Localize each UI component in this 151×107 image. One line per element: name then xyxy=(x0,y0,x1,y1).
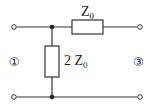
terminal-right-bottom xyxy=(138,95,143,100)
junction-top xyxy=(50,25,55,30)
series-impedance-label: Z0 xyxy=(81,4,95,21)
junction-bottom xyxy=(50,95,55,100)
shunt-impedance-resistor xyxy=(45,46,59,77)
terminal-right-top xyxy=(138,25,143,30)
terminal-left-top xyxy=(12,25,17,30)
shunt-impedance-label: 2 Z0 xyxy=(64,53,88,70)
circuit-diagram: Z0 2 Z0 ① ③ xyxy=(0,0,151,107)
terminal-left-bottom xyxy=(12,95,17,100)
series-impedance-resistor xyxy=(72,20,103,34)
port-right-label: ③ xyxy=(133,55,144,69)
port-left-label: ① xyxy=(9,55,20,69)
